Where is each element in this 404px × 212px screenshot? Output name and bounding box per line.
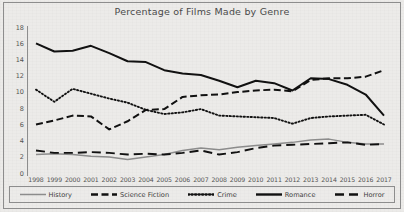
x-tick-label: 2003 (120, 176, 135, 183)
plot-area (28, 28, 392, 174)
legend-swatch-crime-icon (188, 191, 214, 198)
legend-item-romance[interactable]: Romance (256, 191, 316, 199)
y-tick-label: 6 (2, 122, 24, 129)
y-tick-label: 12 (2, 73, 24, 80)
legend-label: Crime (217, 191, 237, 199)
x-tick-label: 2015 (340, 176, 355, 183)
y-tick-label: 14 (2, 57, 24, 64)
legend-item-horror[interactable]: Horror (335, 191, 385, 199)
x-tick-label: 2005 (157, 176, 172, 183)
x-tick-label: 2011 (266, 176, 281, 183)
y-tick-label: 4 (2, 138, 24, 145)
y-tick-label: 18 (2, 25, 24, 32)
y-tick-label: 2 (2, 154, 24, 161)
x-tick-label: 2014 (321, 176, 336, 183)
x-tick-label: 2008 (211, 176, 226, 183)
legend-label: Romance (285, 191, 316, 199)
legend-item-history[interactable]: History (20, 191, 72, 199)
line-chart: Percentage of Films Made by Genre 181614… (0, 0, 404, 212)
y-axis-tick-labels: 181614121086420 (0, 0, 24, 212)
x-tick-label: 2002 (102, 176, 117, 183)
x-tick-label: 2016 (358, 176, 373, 183)
x-tick-label: 2012 (285, 176, 300, 183)
legend-item-crime[interactable]: Crime (188, 191, 237, 199)
chart-legend: HistoryScience FictionCrimeRomanceHorror (9, 186, 395, 203)
x-tick-label: 1998 (28, 176, 43, 183)
x-tick-label: 2009 (230, 176, 245, 183)
legend-swatch-history-icon (20, 191, 46, 198)
legend-label: Horror (364, 191, 385, 199)
x-tick-label: 2010 (248, 176, 263, 183)
legend-swatch-horror-icon (335, 191, 361, 198)
legend-swatch-romance-icon (256, 191, 282, 198)
x-tick-label: 2013 (303, 176, 318, 183)
x-tick-label: 2017 (376, 176, 391, 183)
y-tick-label: 16 (2, 41, 24, 48)
x-tick-label: 2006 (175, 176, 190, 183)
legend-label: History (49, 191, 72, 199)
x-tick-label: 1999 (47, 176, 62, 183)
y-tick-label: 10 (2, 89, 24, 96)
series-line-romance (36, 43, 384, 115)
x-tick-label: 2001 (83, 176, 98, 183)
x-tick-label: 2004 (138, 176, 153, 183)
series-line-crime (36, 89, 384, 125)
legend-item-science-fiction[interactable]: Science Fiction (91, 191, 169, 199)
y-tick-label: 0 (2, 171, 24, 178)
x-tick-label: 2007 (193, 176, 208, 183)
y-tick-label: 8 (2, 106, 24, 113)
x-tick-label: 2000 (65, 176, 80, 183)
series-canvas (28, 28, 392, 174)
legend-swatch-science-fiction-icon (91, 191, 117, 198)
legend-label: Science Fiction (120, 191, 169, 199)
chart-title: Percentage of Films Made by Genre (0, 6, 404, 17)
